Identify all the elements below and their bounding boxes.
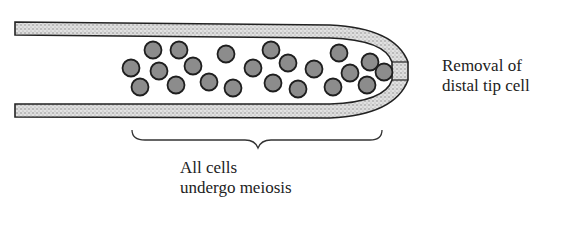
removal-line-1: Removal of (442, 56, 530, 76)
germ-cell-nucleus (132, 79, 149, 96)
curly-brace (132, 130, 382, 148)
germ-cell-nucleus (359, 77, 376, 94)
germ-cell-nucleus (325, 79, 342, 96)
germ-cell-nucleus (225, 80, 242, 97)
meiosis-line-2: undergo meiosis (180, 178, 292, 198)
germ-cell-nucleus (342, 65, 359, 82)
germ-cell-nucleus (376, 64, 393, 81)
germ-cell-nucleus (151, 63, 168, 80)
germ-cell-nucleus (218, 46, 235, 63)
germ-cell-nucleus (171, 42, 188, 59)
germ-cell-nucleus (290, 81, 307, 98)
germ-cell-nucleus (123, 60, 140, 77)
germ-cell-nucleus (280, 55, 297, 72)
removal-line-2: distal tip cell (442, 76, 530, 96)
germ-cell-nuclei (123, 42, 393, 98)
germ-cell-nucleus (201, 74, 218, 91)
germ-cell-nucleus (331, 45, 348, 62)
all-cells-meiosis-label: All cells undergo meiosis (180, 158, 292, 198)
meiosis-line-1: All cells (180, 158, 292, 178)
germ-cell-nucleus (145, 42, 162, 59)
germ-cell-nucleus (265, 75, 282, 92)
germ-cell-nucleus (168, 77, 185, 94)
germ-cell-nucleus (245, 60, 262, 77)
germ-cell-nucleus (263, 42, 280, 59)
germ-cell-nucleus (306, 61, 323, 78)
removal-distal-tip-cell-label: Removal of distal tip cell (442, 56, 530, 96)
germ-cell-nucleus (185, 58, 202, 75)
